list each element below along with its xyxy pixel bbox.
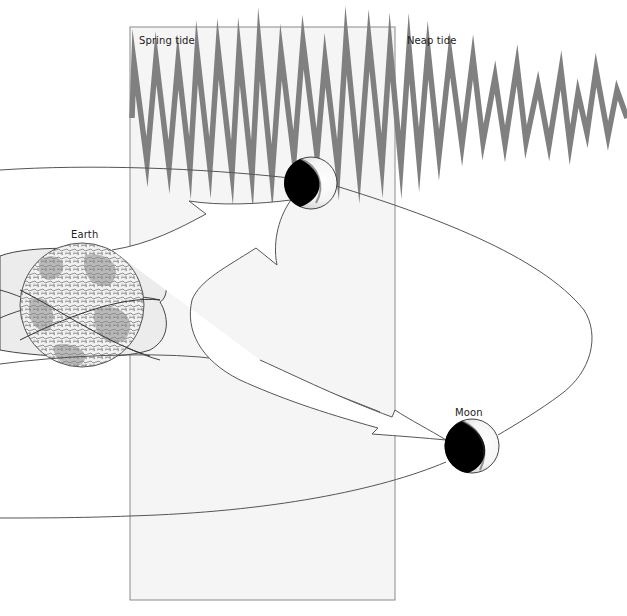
moon-label: Moon bbox=[455, 407, 483, 418]
spring-tide-label: Spring tide bbox=[139, 35, 195, 46]
neap-tide-label: Neap tide bbox=[407, 35, 456, 46]
diagram-canvas bbox=[0, 0, 627, 616]
tides-diagram: Spring tide Neap tide Earth Moon bbox=[0, 0, 627, 616]
moon-bottom bbox=[445, 419, 499, 473]
earth-label: Earth bbox=[71, 229, 98, 240]
moon-top bbox=[284, 157, 337, 209]
